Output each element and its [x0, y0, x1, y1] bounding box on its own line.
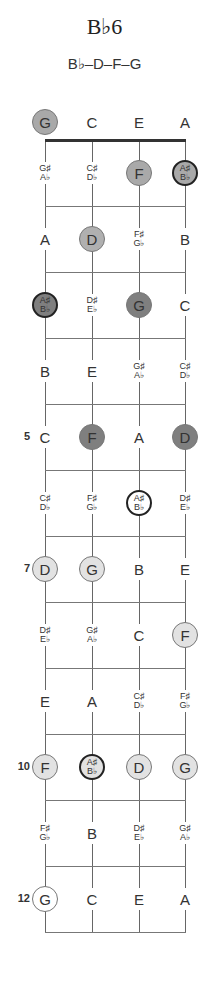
chord-note-marker: G	[126, 292, 152, 318]
note-name-flat: B♭	[180, 173, 190, 182]
note-name-flat: D♭	[134, 701, 145, 710]
note-label: B	[126, 558, 152, 580]
root-note-marker: A♯B♭	[172, 160, 198, 186]
note-name: E	[180, 561, 190, 578]
root-note-marker: A♯B♭	[32, 292, 58, 318]
fret-line-1	[45, 206, 186, 207]
fret-line-3	[45, 338, 186, 339]
note-label: F♯G♭	[79, 492, 105, 514]
note-label: G♯A♭	[79, 624, 105, 646]
note-name-flat: A♭	[134, 371, 144, 380]
note-name: C	[40, 429, 51, 446]
note-name-flat: A♭	[40, 173, 50, 182]
fret-number-12: 12	[10, 892, 30, 904]
fretboard-diagram: GCEAG♯A♭C♯D♭FA♯B♭ADF♯G♭BA♯B♭D♯E♭GCBEG♯A♭…	[0, 0, 209, 985]
note-label: C♯D♭	[32, 492, 58, 514]
chord-note-marker: D	[126, 754, 152, 780]
note-name-flat: D♭	[40, 503, 51, 512]
note-label: C	[79, 111, 105, 133]
chord-note-marker: G	[32, 109, 58, 135]
fret-number-10: 10	[10, 760, 30, 772]
fret-number-7: 7	[10, 562, 30, 574]
chord-note-marker: F	[79, 424, 105, 450]
note-name: D	[87, 231, 98, 248]
note-label: C♯D♭	[172, 360, 198, 382]
note-name-flat: A♭	[87, 635, 97, 644]
fret-line-12	[45, 932, 186, 933]
note-label: D♯E♭	[126, 822, 152, 844]
note-name: A	[180, 891, 190, 908]
chord-note-marker: F	[126, 160, 152, 186]
root-note-marker: A♯B♭	[79, 754, 105, 780]
fret-line-7	[45, 602, 186, 603]
note-name: F	[40, 759, 49, 776]
fret-line-5	[45, 470, 186, 471]
note-name: C	[134, 627, 145, 644]
note-name-flat: B♭	[87, 767, 97, 776]
note-label: D♯E♭	[32, 624, 58, 646]
note-name: D	[180, 429, 191, 446]
note-name-flat: E♭	[40, 635, 50, 644]
note-name-flat: E♭	[87, 305, 97, 314]
note-name: B	[180, 231, 190, 248]
note-label: A	[172, 111, 198, 133]
note-name: G	[133, 297, 145, 314]
note-label: G♯A♭	[32, 162, 58, 184]
note-name: G	[179, 759, 191, 776]
note-label: B	[172, 228, 198, 250]
note-label: A	[172, 888, 198, 910]
fret-line-6	[45, 536, 186, 537]
note-name-flat: D♭	[180, 371, 191, 380]
note-name: B	[87, 825, 97, 842]
fret-line-2	[45, 272, 186, 273]
fret-number-5: 5	[10, 430, 30, 442]
note-name: E	[87, 363, 97, 380]
note-label: E	[126, 111, 152, 133]
note-name-flat: G♭	[133, 239, 144, 248]
note-name: G	[39, 891, 51, 908]
note-name: A	[134, 429, 144, 446]
fret-line-10	[45, 800, 186, 801]
fret-line-8	[45, 668, 186, 669]
chord-note-marker: D	[79, 226, 105, 252]
note-label: A	[32, 228, 58, 250]
chord-note-marker: F	[172, 622, 198, 648]
chord-note-marker: D	[32, 556, 58, 582]
note-label: E	[126, 888, 152, 910]
note-label: C	[79, 888, 105, 910]
note-name-flat: E♭	[134, 833, 144, 842]
note-name-flat: B♭	[40, 305, 50, 314]
note-name: F	[134, 165, 143, 182]
note-label: F♯G♭	[126, 228, 152, 250]
note-name: B	[134, 561, 144, 578]
note-label: F♯G♭	[32, 822, 58, 844]
chord-note-marker: F	[32, 754, 58, 780]
note-label: E	[79, 360, 105, 382]
note-name: G	[86, 561, 98, 578]
chord-note-marker: D	[172, 424, 198, 450]
note-name: B	[40, 363, 50, 380]
note-label: F♯G♭	[172, 690, 198, 712]
root-note-marker: A♯B♭	[126, 490, 152, 516]
note-label: C	[32, 426, 58, 448]
note-label: E	[172, 558, 198, 580]
chord-note-marker: G	[32, 886, 58, 912]
note-name: C	[87, 891, 98, 908]
note-label: E	[32, 690, 58, 712]
note-label: D♯E♭	[172, 492, 198, 514]
note-name: C	[180, 297, 191, 314]
note-name: D	[134, 759, 145, 776]
note-label: D♯E♭	[79, 294, 105, 316]
note-label: B	[79, 822, 105, 844]
note-name: D	[40, 561, 51, 578]
note-name: A	[40, 231, 50, 248]
note-name-flat: G♭	[39, 833, 50, 842]
note-name-flat: B♭	[134, 503, 144, 512]
note-name-flat: G♭	[179, 701, 190, 710]
note-name-flat: A♭	[180, 833, 190, 842]
note-label: C	[172, 294, 198, 316]
note-name-flat: G♭	[86, 503, 97, 512]
note-label: B	[32, 360, 58, 382]
chord-note-marker: G	[79, 556, 105, 582]
note-name: A	[180, 114, 190, 131]
